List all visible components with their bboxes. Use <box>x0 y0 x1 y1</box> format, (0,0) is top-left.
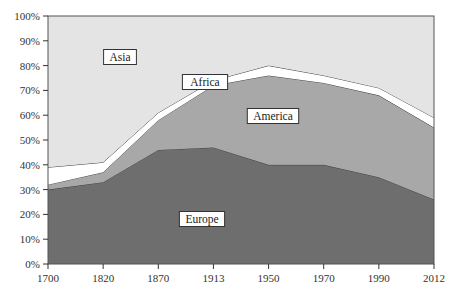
label-america: America <box>247 109 298 124</box>
x-tick-label: 2012 <box>423 272 445 284</box>
x-tick-label: 1950 <box>258 272 281 284</box>
label-asia: Asia <box>104 50 137 65</box>
y-tick-label: 30% <box>20 184 40 196</box>
y-tick-label: 40% <box>20 159 40 171</box>
y-tick-label: 50% <box>20 134 40 146</box>
x-tick-label: 1970 <box>313 272 336 284</box>
x-tick-label: 1990 <box>368 272 391 284</box>
y-tick-label: 0% <box>25 258 40 270</box>
svg-text:Asia: Asia <box>109 51 130 63</box>
x-tick-label: 1913 <box>202 272 225 284</box>
y-tick-label: 70% <box>20 84 40 96</box>
svg-text:Europe: Europe <box>185 213 218 226</box>
y-tick-label: 90% <box>20 35 40 47</box>
label-europe: Europe <box>179 212 224 227</box>
y-tick-label: 80% <box>20 60 40 72</box>
stacked-area-chart: 0%10%20%30%40%50%60%70%80%90%100%1700182… <box>0 0 455 295</box>
y-tick-label: 100% <box>14 10 40 22</box>
x-tick-label: 1700 <box>37 272 60 284</box>
svg-text:Africa: Africa <box>190 76 219 88</box>
y-tick-label: 60% <box>20 109 40 121</box>
label-africa: Africa <box>182 75 227 90</box>
x-tick-label: 1870 <box>147 272 170 284</box>
y-tick-label: 10% <box>20 233 40 245</box>
x-tick-label: 1820 <box>92 272 115 284</box>
y-tick-label: 20% <box>20 208 40 220</box>
svg-text:America: America <box>253 110 293 122</box>
